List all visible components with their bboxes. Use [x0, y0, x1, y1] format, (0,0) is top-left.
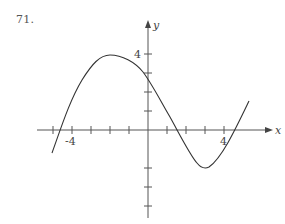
y-axis-arrow-icon	[145, 20, 151, 28]
x-axis-arrow-icon	[265, 127, 273, 133]
x-axis-label: x	[275, 124, 282, 137]
y-axis-label: y	[152, 19, 160, 32]
y-tick-label-4: 4	[134, 48, 141, 61]
x-tick-label-neg4: -4	[65, 135, 76, 148]
function-graph: x y -4 4 4	[0, 0, 285, 224]
